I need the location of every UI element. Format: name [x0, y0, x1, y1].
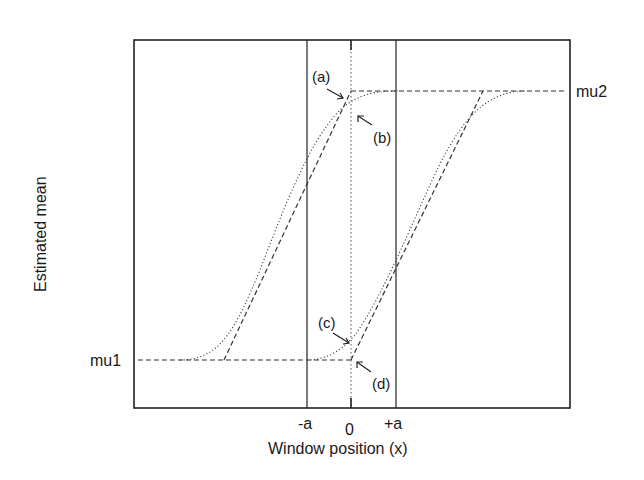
arrow-b: [358, 116, 372, 125]
annotation-d: (d): [372, 375, 390, 392]
x-tick-minus-a: -a: [298, 415, 312, 432]
x-axis-label: Window position (x): [268, 440, 408, 457]
left-dotted-curve: [180, 91, 398, 360]
estimated-mean-diagram: (a) (b) (c) (d) mu2 mu1 -a 0 +a Window p…: [0, 0, 644, 480]
annotation-b: (b): [373, 129, 391, 146]
annotation-a: (a): [312, 68, 330, 85]
mu1-label: mu1: [90, 352, 121, 369]
x-tick-zero: 0: [345, 421, 354, 438]
y-axis-label: Estimated mean: [32, 176, 49, 292]
right-dashed-ramp: [351, 91, 483, 360]
arrow-d: [357, 362, 371, 372]
right-dotted-curve: [307, 91, 525, 360]
x-tick-plus-a: +a: [384, 415, 402, 432]
annotation-c: (c): [318, 314, 336, 331]
mu2-label: mu2: [576, 83, 607, 100]
plot-frame: [134, 40, 570, 408]
